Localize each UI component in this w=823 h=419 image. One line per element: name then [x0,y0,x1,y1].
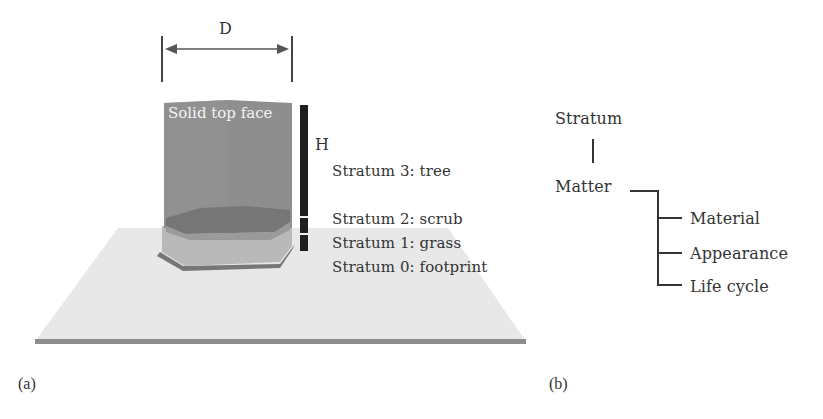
tree-child-matter: Matter [555,177,612,196]
height-bar [300,105,308,251]
height-bar-gap-2 [300,233,308,235]
stratum-2-label: Stratum 2: scrub [332,210,463,228]
dimension-h-label: H [315,135,329,154]
stratum-3-label: Stratum 3: tree [332,162,451,180]
panel-b-tag: (b) [549,375,568,393]
ground-plane-edge [35,339,526,344]
tree-attr-lifecycle: Life cycle [690,277,769,296]
tree-attr-material: Material [690,209,760,228]
stratum-1-label: Stratum 1: grass [332,234,461,252]
height-bar-gap-1 [300,216,308,218]
dimension-d-label: D [219,19,232,38]
panel-a-tag: (a) [18,375,36,393]
d-arrowhead-right [277,44,289,54]
tree-root-stratum: Stratum [555,109,622,128]
stratum-0-label: Stratum 0: footprint [332,258,487,276]
tree-attr-appearance: Appearance [690,244,788,263]
top-face-label: Solid top face [168,104,272,122]
d-arrowhead-left [165,44,177,54]
